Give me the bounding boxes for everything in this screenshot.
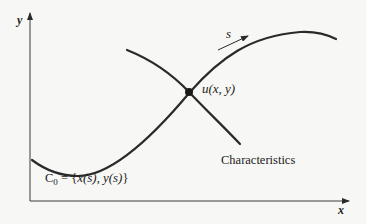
characteristics-diagram: y x s u(x, y) Characteristics C0 = {x(s)…	[0, 0, 366, 224]
set-close: }	[122, 171, 128, 185]
initial-curve-label: C0 = {x(s), y(s)}	[45, 170, 128, 187]
equals-sign: =	[58, 171, 71, 185]
y-of-s: y(s)	[101, 170, 123, 185]
x-of-s: x(s)	[76, 170, 97, 185]
c0-prefix: C	[45, 171, 53, 185]
intersection-point	[185, 88, 193, 96]
y-axis-label: y	[15, 13, 23, 27]
s-label: s	[226, 26, 231, 41]
point-label: u(x, y)	[202, 81, 235, 96]
characteristic-curve	[127, 50, 240, 144]
characteristics-label: Characteristics	[221, 153, 295, 167]
x-axis-label: x	[337, 203, 344, 217]
